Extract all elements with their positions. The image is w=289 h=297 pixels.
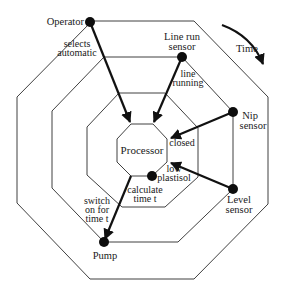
edge-label-plastisol: plastisol bbox=[157, 172, 191, 183]
line-run-sensor-node bbox=[177, 52, 187, 62]
line-run-sensor-label-2: sensor bbox=[169, 41, 196, 52]
edge-label-time-t-pump: time t bbox=[85, 213, 108, 224]
level-sensor-label-2: sensor bbox=[226, 204, 253, 215]
edge-label-closed: closed bbox=[169, 137, 195, 148]
time-label: Time bbox=[236, 43, 258, 54]
level-sensor-node bbox=[228, 184, 238, 194]
operator-node bbox=[85, 17, 95, 27]
pump-label: Pump bbox=[93, 250, 118, 261]
nip-sensor-label-2: sensor bbox=[240, 120, 267, 131]
arrow-linerun-to-processor bbox=[154, 57, 182, 122]
pump-node bbox=[99, 237, 109, 247]
octagon-timing-diagram: Time Operator Line run sensor Nip sensor… bbox=[0, 0, 289, 297]
edge-label-automatic: automatic bbox=[57, 47, 97, 58]
operator-label: Operator bbox=[47, 16, 85, 27]
calculate-node bbox=[147, 171, 157, 181]
nip-sensor-node bbox=[228, 107, 238, 117]
edge-label-running: running bbox=[172, 77, 203, 88]
arrow-operator-to-processor bbox=[90, 22, 130, 122]
arrow-nip-to-processor bbox=[171, 112, 233, 138]
processor-label: Processor bbox=[121, 144, 164, 156]
edge-label-time-t-calc: time t bbox=[133, 193, 156, 204]
